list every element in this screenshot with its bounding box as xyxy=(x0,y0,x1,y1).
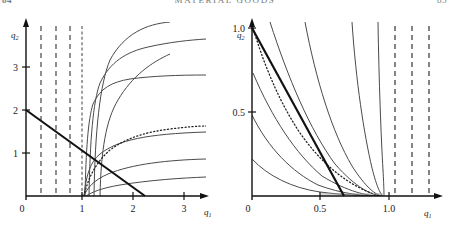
left-yticklabel-1: 1 xyxy=(13,148,18,159)
figure-two-panel-indifference-curves: 1 2 3 0 1 2 3 q2 q1 xyxy=(0,0,450,230)
indifference-curve-3 xyxy=(94,22,170,196)
right-indifference-curves xyxy=(252,22,384,196)
indifference-curve-2 xyxy=(252,115,380,196)
left-xticklabel-0: 0 xyxy=(20,203,25,214)
indifference-curve-4 xyxy=(270,22,381,196)
indifference-curve-7 xyxy=(86,177,206,196)
right-x-axis-arrow xyxy=(434,193,443,199)
left-x-axis-label-sub: 1 xyxy=(209,212,212,218)
left-xticklabel-2: 2 xyxy=(131,203,136,214)
left-xticklabel-3: 3 xyxy=(182,203,187,214)
left-xticklabel-1: 1 xyxy=(80,203,85,214)
indifference-curve-2 xyxy=(89,39,206,196)
indifference-curve-4 xyxy=(100,54,170,196)
indifference-curve-7 xyxy=(378,22,384,196)
left-x-axis-label: q1 xyxy=(204,207,212,218)
indifference-curve-1 xyxy=(252,159,380,196)
right-asymptotes-group xyxy=(395,26,429,196)
indifference-curve-5 xyxy=(305,22,382,196)
left-panel: 1 2 3 0 1 2 3 q2 q1 xyxy=(11,18,212,218)
left-yticklabel-2: 2 xyxy=(13,105,18,116)
left-y-axis-arrow xyxy=(23,18,29,27)
right-x-axis-label-sub: 1 xyxy=(429,213,432,219)
left-y-axis-label: q2 xyxy=(11,30,19,41)
right-xticklabel-0: 0 xyxy=(246,203,251,214)
right-y-axis-label-sub: 2 xyxy=(242,35,245,41)
left-asymptotes-group xyxy=(41,26,82,196)
left-indifference-curves xyxy=(84,22,206,196)
right-x-axis-label: q1 xyxy=(424,208,432,219)
left-y-axis-label-sub: 2 xyxy=(16,35,19,41)
right-yticklabel-05: 0.5 xyxy=(233,107,246,118)
right-xticklabel-10: 1.0 xyxy=(383,203,396,214)
left-x-axis-arrow xyxy=(200,193,209,199)
left-yticklabel-3: 3 xyxy=(13,62,18,73)
right-y-axis-arrow xyxy=(249,18,255,27)
right-panel: 0.5 1.0 0 0.5 1.0 q2 q1 xyxy=(233,18,444,219)
right-xticklabel-05: 0.5 xyxy=(314,203,327,214)
